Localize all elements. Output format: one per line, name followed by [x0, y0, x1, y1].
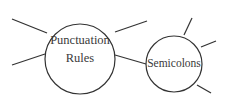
semicolons-branch-bottom: [197, 85, 211, 93]
node-semicolons-label: Semicolons: [147, 57, 201, 69]
node-punctuation-rules-label-line2: Rules: [66, 51, 95, 65]
branch-line-left-top: [12, 19, 47, 33]
mind-map-diagram: Punctuation Rules Semicolons: [0, 0, 236, 102]
diagram-canvas: Punctuation Rules Semicolons: [0, 0, 236, 102]
connector-line: [115, 55, 146, 64]
semicolons-branch-right: [201, 41, 216, 47]
branch-line-left-bottom: [12, 54, 45, 65]
semicolons-branch-top: [184, 18, 192, 35]
node-punctuation-rules-label-line1: Punctuation: [50, 33, 110, 47]
branch-line-right-top: [115, 21, 147, 32]
